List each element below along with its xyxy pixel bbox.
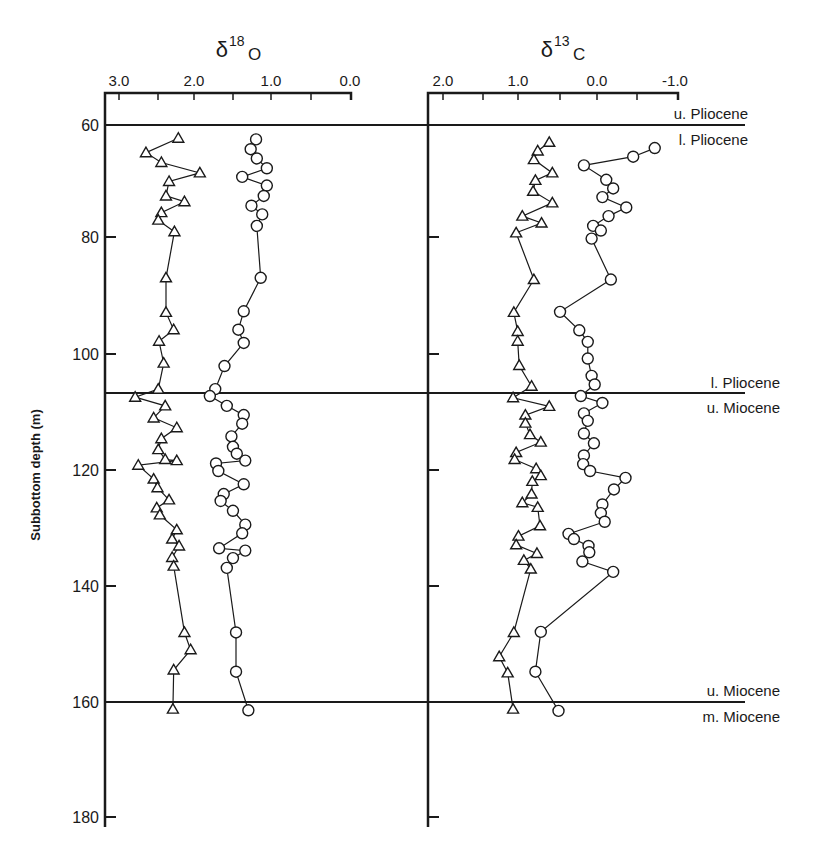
triangle-marker: [517, 211, 528, 221]
triangle-marker: [160, 272, 171, 282]
circle-marker: [628, 151, 639, 162]
svg-text:O: O: [248, 45, 261, 64]
circle-marker: [530, 666, 541, 677]
circle-marker: [255, 272, 266, 283]
triangle-marker: [156, 157, 167, 167]
right-x-tick-labels: 2.0 1.0 0.0 -1.0: [433, 72, 688, 89]
svg-text:3.0: 3.0: [109, 72, 130, 89]
svg-text:80: 80: [81, 229, 99, 246]
triangle-marker: [156, 433, 167, 443]
circle-marker: [221, 562, 232, 573]
svg-text:100: 100: [72, 346, 99, 363]
svg-text:C: C: [573, 45, 585, 64]
triangle-marker: [167, 704, 178, 714]
label-l-pliocene-top: l. Pliocene: [679, 131, 748, 148]
circle-marker: [240, 545, 251, 556]
circle-marker: [221, 400, 232, 411]
circle-marker: [589, 379, 600, 390]
left-panel-title: δ 18 O: [216, 33, 261, 64]
circle-marker: [603, 211, 614, 222]
svg-text:120: 120: [72, 462, 99, 479]
triangle-marker: [535, 520, 546, 530]
circle-marker: [555, 306, 566, 317]
svg-text:140: 140: [72, 578, 99, 595]
circle-marker: [649, 143, 660, 154]
triangle-marker: [513, 531, 524, 541]
triangle-marker: [168, 324, 179, 334]
circle-marker: [605, 274, 616, 285]
circle-marker: [261, 180, 272, 191]
triangle-marker: [512, 336, 523, 346]
triangle-marker: [153, 444, 164, 454]
svg-text:0.0: 0.0: [340, 72, 361, 89]
circle-marker: [597, 192, 608, 203]
svg-text:1.0: 1.0: [261, 72, 282, 89]
circle-marker: [238, 479, 249, 490]
triangle-marker: [160, 190, 171, 200]
circle-marker: [586, 233, 597, 244]
triangle-marker: [502, 667, 513, 677]
circle-marker: [204, 391, 215, 402]
triangle-marker: [167, 552, 178, 562]
circle-marker: [620, 472, 631, 483]
circle-marker: [231, 666, 242, 677]
circle-marker: [595, 225, 606, 236]
circle-marker: [621, 202, 632, 213]
label-u-miocene-top: u. Miocene: [707, 399, 780, 416]
svg-text:-1.0: -1.0: [662, 72, 688, 89]
triangle-marker: [518, 555, 529, 565]
circle-marker: [574, 325, 585, 336]
right-panel-title: δ 13 C: [541, 33, 586, 64]
triangle-marker: [154, 336, 165, 346]
circle-marker: [227, 505, 238, 516]
triangle-marker: [525, 429, 536, 439]
circle-marker: [608, 566, 619, 577]
circle-marker: [582, 336, 593, 347]
circle-marker: [215, 495, 226, 506]
left-circles-series: [204, 134, 272, 716]
svg-text:18: 18: [229, 33, 245, 49]
label-u-pliocene: u. Pliocene: [674, 105, 748, 122]
triangle-marker: [179, 627, 190, 637]
left-triangles-series: [130, 133, 206, 713]
data-series: [130, 133, 661, 717]
circle-marker: [214, 543, 225, 554]
triangle-marker: [531, 548, 542, 558]
label-m-miocene: m. Miocene: [702, 708, 780, 725]
circle-marker: [227, 553, 238, 564]
circle-marker: [238, 306, 249, 317]
triangle-marker: [173, 133, 184, 143]
circle-marker: [597, 397, 608, 408]
isotope-depth-chart: δ 18 O δ 13 C 3.0 2.0 1.0 0.0 2.0 1.0 0.…: [0, 0, 814, 853]
circle-marker: [608, 183, 619, 194]
svg-text:60: 60: [81, 117, 99, 134]
triangle-marker: [169, 226, 180, 236]
triangle-marker: [547, 197, 558, 207]
circle-marker: [585, 466, 596, 477]
circle-marker: [578, 160, 589, 171]
svg-text:δ: δ: [541, 37, 553, 62]
circle-marker: [226, 431, 237, 442]
circle-marker: [243, 705, 254, 716]
circle-marker: [578, 428, 589, 439]
circle-marker: [599, 516, 610, 527]
circle-marker: [238, 337, 249, 348]
triangle-marker: [544, 137, 555, 147]
circle-marker: [237, 528, 248, 539]
svg-text:2.0: 2.0: [184, 72, 205, 89]
right-circles-series: [530, 143, 660, 717]
circle-marker: [261, 163, 272, 174]
circle-marker: [237, 418, 248, 429]
left-x-tick-labels: 3.0 2.0 1.0 0.0: [109, 72, 361, 89]
triangle-marker: [528, 186, 539, 196]
circle-marker: [237, 171, 248, 182]
triangle-marker: [167, 534, 178, 544]
triangle-marker: [160, 454, 171, 464]
circle-marker: [577, 556, 588, 567]
triangle-marker: [508, 307, 519, 317]
circle-marker: [240, 455, 251, 466]
circle-marker: [535, 626, 546, 637]
triangle-marker: [514, 360, 525, 370]
svg-text:1.0: 1.0: [508, 72, 529, 89]
triangle-marker: [536, 218, 547, 228]
